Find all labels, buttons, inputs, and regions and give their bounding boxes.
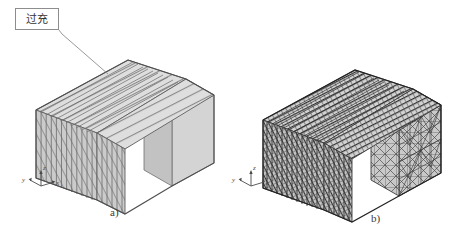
axis-b-z-label: z	[252, 164, 256, 172]
figure-canvas: z x y	[0, 0, 454, 238]
axis-b-y-label: y	[231, 176, 236, 184]
subfigure-label-a: a)	[110, 206, 119, 218]
callout-overcharge-box: 过充	[15, 8, 59, 30]
callout-overcharge-label: 过充	[26, 14, 48, 25]
subfigure-label-b: b)	[371, 212, 380, 224]
axis-a-z-label: z	[42, 164, 46, 172]
callout-leader-line	[59, 30, 108, 74]
subfigure-b-block	[263, 70, 441, 222]
subfigure-a-block	[36, 60, 214, 214]
figure-container: z x y	[0, 0, 454, 238]
axis-a-y-label: y	[21, 176, 26, 184]
